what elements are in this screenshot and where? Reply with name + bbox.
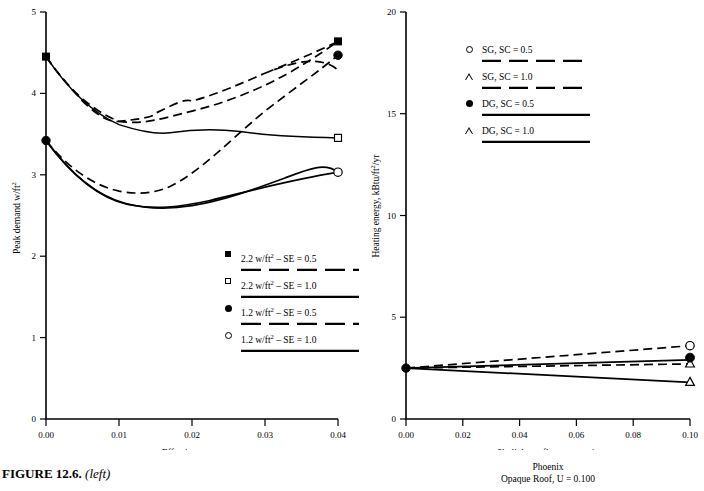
- left-series-2-marker-end: [335, 134, 342, 141]
- left-chart-plot: 0 1 2 3 4 5 0.00 0.01 0.02 0.03 0.04: [0, 0, 352, 450]
- right-chart-panel: 0 5 10 15 20 0.00 0.02 0.04 0.06 0.08: [352, 0, 704, 491]
- left-yaxis-title: Peak demand w/ft2: [10, 158, 22, 278]
- right-ytick-15: 15: [387, 109, 397, 119]
- legend-label-left-2-rest: – SE = 0.5: [274, 308, 317, 318]
- left-yaxis-title-base: Peak demand w/ft: [12, 185, 22, 254]
- right-y-ticklabels: 0 5 10 15 20: [387, 7, 397, 424]
- legend-item-left-1[interactable]: 2.2 w/ft2 – SE = 1.0: [215, 277, 359, 304]
- legend-label-right-3: DG, SC = 1.0: [482, 126, 590, 137]
- filled-square-icon: [215, 250, 241, 257]
- left-x-ticklabels: 0.00 0.01 0.02 0.03 0.04: [38, 430, 346, 440]
- legend-item-right-3[interactable]: DG, SC = 1.0: [456, 126, 590, 153]
- left-series-4-marker-end: [334, 168, 342, 176]
- left-xtick-4: 0.04: [330, 430, 346, 440]
- right-x-ticks: [406, 419, 690, 426]
- left-ytick-4: 4: [32, 88, 37, 98]
- figure-12-6: 0 1 2 3 4 5 0.00 0.01 0.02 0.03 0.04: [0, 0, 704, 491]
- left-xtick-1: 0.01: [111, 430, 127, 440]
- right-yaxis-title-sup: 2: [369, 165, 376, 168]
- left-chart-panel: 0 1 2 3 4 5 0.00 0.01 0.02 0.03 0.04: [0, 0, 352, 491]
- left-series-1-line-main: [46, 41, 338, 122]
- left-chart-legend: 2.2 w/ft2 – SE = 0.5 2.2 w/ft2 – SE = 1.…: [215, 250, 359, 358]
- left-xtick-3: 0.03: [257, 430, 273, 440]
- left-y-ticks: [40, 12, 46, 419]
- right-origin-marker: [402, 364, 410, 372]
- right-y-ticks: [400, 12, 406, 419]
- figure-caption-note: (left): [85, 466, 110, 481]
- open-circle-icon: [456, 45, 482, 53]
- legend-item-left-0[interactable]: 2.2 w/ft2 – SE = 0.5: [215, 250, 359, 277]
- left-ytick-5: 5: [32, 7, 37, 17]
- open-triangle-icon: [456, 72, 482, 80]
- legend-sample-left-2: [241, 322, 359, 325]
- open-circle-icon: [215, 331, 241, 339]
- legend-label-left-1-base: 2.2 w/ft: [241, 281, 271, 291]
- legend-sample-left-3: [241, 349, 359, 352]
- legend-label-right-2: DG, SC = 0.5: [482, 99, 590, 110]
- legend-label-left-3-base: 1.2 w/ft: [241, 335, 271, 345]
- figure-caption: FIGURE 12.6. (left): [2, 466, 110, 482]
- left-ytick-1: 1: [32, 333, 37, 343]
- right-subcaption-line1: Phoenix: [458, 462, 638, 474]
- right-x-ticklabels: 0.00 0.02 0.04 0.06 0.08 0.10: [398, 430, 698, 440]
- open-square-icon: [215, 277, 241, 284]
- left-xtick-2: 0.02: [184, 430, 200, 440]
- legend-item-left-3[interactable]: 1.2 w/ft2 – SE = 1.0: [215, 331, 359, 358]
- right-series-0-marker-end: [686, 342, 694, 350]
- legend-label-left-0-rest: – SE = 0.5: [274, 254, 317, 264]
- right-xtick-2: 0.04: [512, 430, 528, 440]
- legend-item-left-2[interactable]: 1.2 w/ft2 – SE = 0.5: [215, 304, 359, 331]
- legend-item-right-0[interactable]: SG, SC = 0.5: [456, 45, 590, 72]
- legend-sample-left-1: [241, 295, 359, 298]
- left-series-3-marker-end: [334, 51, 342, 59]
- left-series-1-marker-end: [335, 38, 342, 45]
- right-xtick-1: 0.02: [455, 430, 471, 440]
- legend-label-left-1: 2.2 w/ft2 – SE = 1.0: [241, 277, 359, 292]
- legend-item-right-1[interactable]: SG, SC = 1.0: [456, 72, 590, 99]
- figure-caption-number: FIGURE 12.6.: [2, 466, 82, 481]
- legend-label-right-1: SG, SC = 1.0: [482, 72, 590, 83]
- right-series-3-line: [406, 368, 690, 382]
- left-series-1-line: [46, 41, 338, 121]
- legend-label-left-1-rest: – SE = 1.0: [274, 281, 317, 291]
- left-ytick-3: 3: [32, 170, 37, 180]
- filled-circle-icon: [215, 304, 241, 312]
- legend-label-left-3-rest: – SE = 1.0: [274, 335, 317, 345]
- right-xtick-4: 0.08: [625, 430, 641, 440]
- left-yaxis-title-sup: 2: [10, 182, 17, 185]
- right-yaxis-title-base: Heating energy, kBtu/ft: [371, 168, 381, 257]
- right-series-2-marker-end: [686, 353, 695, 362]
- legend-sample-right-1: [482, 86, 590, 89]
- right-ytick-5: 5: [392, 312, 397, 322]
- right-ytick-20: 20: [387, 7, 397, 17]
- legend-sample-left-0: [241, 268, 359, 271]
- right-xtick-0: 0.00: [398, 430, 414, 440]
- left-series-4-line: [46, 141, 338, 209]
- left-xaxis-title: Effective aperture: [162, 448, 230, 450]
- left-series-2-line: [46, 57, 338, 138]
- legend-label-left-3: 1.2 w/ft2 – SE = 1.0: [241, 331, 359, 346]
- legend-item-right-2[interactable]: DG, SC = 0.5: [456, 99, 590, 126]
- right-xtick-5: 0.10: [682, 430, 698, 440]
- left-x-ticks: [46, 419, 338, 426]
- legend-label-left-2: 1.2 w/ft2 – SE = 0.5: [241, 304, 359, 319]
- right-subcaption-line2: Opaque Roof, U = 0.100: [458, 474, 638, 486]
- right-ytick-10: 10: [387, 211, 397, 221]
- filled-circle-icon: [456, 99, 482, 107]
- legend-sample-right-3: [482, 140, 590, 143]
- right-xaxis-title: Skylight-to-floor area ratio: [497, 448, 600, 450]
- left-y-ticklabels: 0 1 2 3 4 5: [32, 7, 37, 424]
- left-ytick-0: 0: [32, 414, 37, 424]
- right-chart-subcaption: Phoenix Opaque Roof, U = 0.100: [458, 462, 638, 485]
- left-xtick-0: 0.00: [38, 430, 54, 440]
- right-yaxis-title-rest: /yr: [371, 155, 381, 166]
- left-ytick-2: 2: [32, 251, 37, 261]
- legend-sample-right-2: [482, 113, 590, 116]
- legend-label-left-0: 2.2 w/ft2 – SE = 0.5: [241, 250, 359, 265]
- right-yaxis-title: Heating energy, kBtu/ft2/yr: [369, 121, 381, 291]
- open-triangle-icon: [456, 126, 482, 134]
- right-chart-legend: SG, SC = 0.5 SG, SC = 1.0 DG, SC = 0.5: [456, 45, 590, 153]
- legend-label-left-0-base: 2.2 w/ft: [241, 254, 271, 264]
- right-xtick-3: 0.06: [569, 430, 585, 440]
- legend-label-right-0: SG, SC = 0.5: [482, 45, 590, 56]
